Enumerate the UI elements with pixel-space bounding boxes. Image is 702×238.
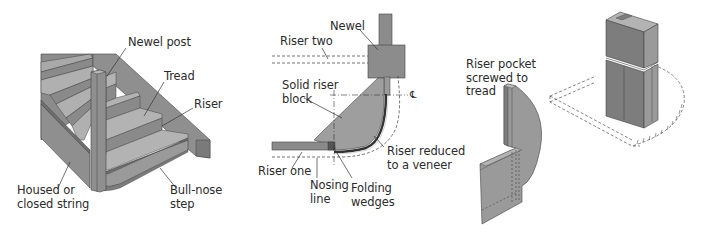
label-newel-post: Newel post — [128, 36, 191, 50]
label-nosing-line: Nosing line — [310, 179, 349, 206]
label-riser-one: Riser one — [258, 165, 311, 179]
riser-pocket-illustration — [468, 0, 702, 238]
staircase-overview-panel: Newel post Tread Riser Housed or closed … — [0, 0, 234, 238]
label-bull-nose-step: Bull-nose step — [170, 184, 222, 211]
centre-line-symbol: ℄ — [410, 88, 416, 102]
label-riser-reduced: Riser reduced to a veneer — [387, 145, 465, 172]
label-solid-riser-block: Solid riser block — [282, 79, 338, 106]
riser-pocket-panel: Riser pocket screwed to tread — [468, 0, 702, 238]
bull-nose-plan-panel: Newel Riser two Solid riser block ℄ Rise… — [234, 0, 468, 238]
label-riser-pocket: Riser pocket screwed to tread — [466, 58, 536, 99]
label-riser: Riser — [194, 98, 222, 112]
label-housed-string: Housed or closed string — [17, 184, 89, 211]
label-folding-wedges: Folding wedges — [351, 182, 395, 209]
label-tread: Tread — [164, 70, 195, 84]
label-newel: Newel — [330, 20, 365, 34]
label-riser-two: Riser two — [280, 35, 333, 49]
